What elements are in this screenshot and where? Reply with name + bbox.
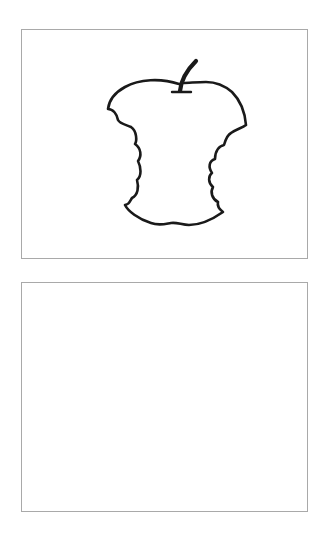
image-panel-empty	[21, 282, 308, 512]
image-panel-apple	[21, 29, 308, 259]
apple-core-icon	[22, 30, 309, 260]
